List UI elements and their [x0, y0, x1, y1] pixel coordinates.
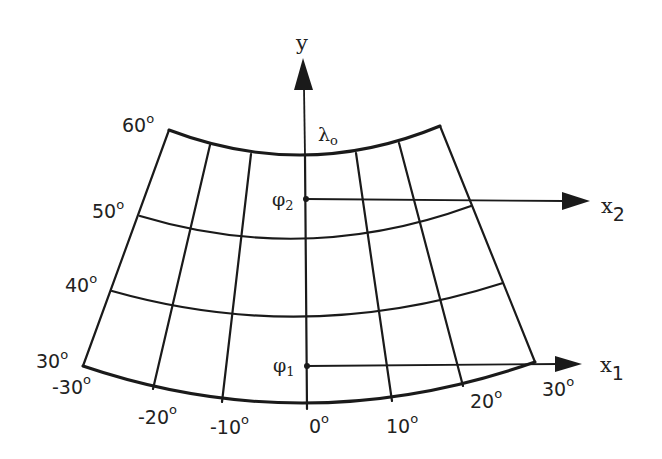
meridian-20	[399, 143, 463, 386]
x2-axis-arrowhead-icon	[562, 192, 590, 210]
y-axis-label: y	[295, 31, 308, 55]
meridian-30	[440, 126, 535, 362]
central-meridian-label: λo	[318, 123, 338, 148]
meridian-minus-20	[153, 145, 210, 389]
phi1-label: φ1	[273, 354, 295, 379]
meridian-0	[305, 156, 307, 409]
lat-label-60: 60o	[122, 111, 154, 136]
lat-label-30: 30o	[36, 347, 68, 372]
x1-axis-arrowhead-icon	[555, 356, 582, 372]
phi2-label: φ2	[272, 188, 294, 213]
meridian-minus-30	[83, 130, 169, 366]
lon-label-30: 30o	[542, 374, 574, 400]
y-axis: y	[294, 31, 313, 156]
conic-projection-diagram: y λo x2 φ2 x1 φ1 60o 50o	[0, 0, 662, 459]
longitude-labels: -30o -20o -10o 0o 10o 20o 30o	[52, 372, 574, 438]
lon-label-0: 0o	[309, 411, 329, 437]
lon-label-minus-20: -20o	[138, 402, 177, 428]
parallels	[83, 126, 535, 403]
x1-axis-label: x1	[600, 353, 624, 384]
lon-label-20: 20o	[470, 386, 502, 412]
x2-axis: x2 φ2	[272, 188, 625, 225]
lat-label-50: 50o	[92, 197, 124, 222]
y-axis-arrowhead-icon	[294, 58, 313, 90]
meridian-minus-10	[222, 154, 251, 402]
x2-axis-label: x2	[601, 194, 625, 225]
lon-label-minus-30: -30o	[52, 372, 91, 398]
lat-label-40: 40o	[65, 271, 97, 296]
meridian-10	[356, 153, 392, 401]
lon-label-10: 10o	[386, 411, 418, 437]
lon-label-minus-10: -10o	[210, 412, 249, 438]
